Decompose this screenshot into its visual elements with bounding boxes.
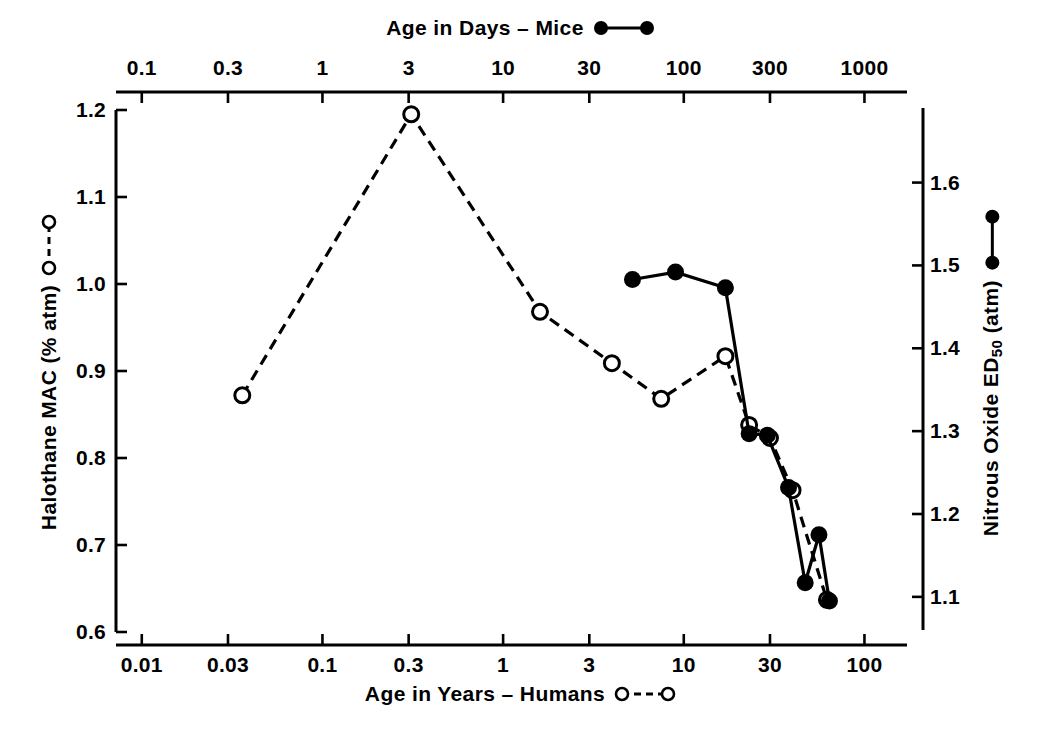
bottom-tick-label: 0.03 <box>207 653 249 677</box>
right-tick-label: 1.6 <box>930 171 960 195</box>
data-point-filled <box>810 526 827 543</box>
data-point-open <box>604 356 619 371</box>
data-point-filled <box>624 271 641 288</box>
top-tick-label: 100 <box>666 56 702 80</box>
bottom-tick-label: 0.01 <box>121 653 163 677</box>
right-tick-label: 1.5 <box>930 253 960 277</box>
data-point-open <box>404 107 419 122</box>
left-tick-label: 0.6 <box>76 620 106 644</box>
right-tick-label: 1.4 <box>930 336 960 360</box>
bottom-tick-label: 0.3 <box>394 653 424 677</box>
bottom-tick-label: 0.1 <box>307 653 337 677</box>
data-point-open <box>718 349 733 364</box>
left-tick-label: 0.8 <box>76 446 106 470</box>
data-point-open <box>235 388 250 403</box>
bottom-tick-label: 3 <box>583 653 595 677</box>
data-point-filled <box>780 479 797 496</box>
top-tick-label: 1000 <box>840 56 888 80</box>
data-point-filled <box>821 593 838 610</box>
top-tick-label: 0.1 <box>127 56 157 80</box>
bottom-tick-label: 1 <box>497 653 509 677</box>
top-tick-label: 1 <box>316 56 328 80</box>
bottom-tick-label: 10 <box>672 653 696 677</box>
top-tick-label: 300 <box>752 56 788 80</box>
data-point-filled <box>717 279 734 296</box>
series-line-1 <box>633 272 830 601</box>
bottom-tick-label: 30 <box>758 653 782 677</box>
chart-figure: Age in Days – Mice Age in Years – Humans… <box>0 0 1041 738</box>
left-tick-label: 1.1 <box>76 185 106 209</box>
series-line-0 <box>242 114 827 600</box>
top-tick-label: 10 <box>491 56 515 80</box>
left-tick-label: 1.0 <box>76 272 106 296</box>
data-point-open <box>532 304 547 319</box>
data-point-open <box>654 391 669 406</box>
top-tick-label: 3 <box>403 56 415 80</box>
plot-area <box>0 0 1041 738</box>
bottom-tick-label: 100 <box>846 653 882 677</box>
right-tick-label: 1.1 <box>930 585 960 609</box>
left-tick-label: 0.7 <box>76 533 106 557</box>
data-point-filled <box>759 427 776 444</box>
right-tick-label: 1.3 <box>930 419 960 443</box>
left-tick-label: 1.2 <box>76 98 106 122</box>
data-point-filled <box>797 574 814 591</box>
top-tick-label: 0.3 <box>213 56 243 80</box>
top-tick-label: 30 <box>577 56 601 80</box>
right-tick-label: 1.2 <box>930 502 960 526</box>
left-tick-label: 0.9 <box>76 359 106 383</box>
series-layer <box>235 107 838 610</box>
data-point-filled <box>667 264 684 281</box>
data-point-filled <box>741 425 758 442</box>
